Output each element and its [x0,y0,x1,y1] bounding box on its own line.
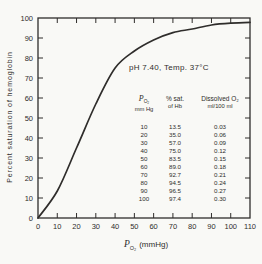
svg-text:90: 90 [207,222,215,231]
svg-text:0: 0 [36,222,40,231]
table-cell: 97.4 [157,195,193,203]
svg-text:90: 90 [25,34,33,43]
table-header-gap [132,113,246,123]
table-cell: 80 [132,179,156,187]
svg-text:100: 100 [224,222,237,231]
svg-text:70: 70 [25,74,33,83]
y-tick-labels: 0102030405060708090100 [20,14,33,223]
svg-text:60: 60 [149,222,157,231]
table-cell: 13.5 [157,123,193,131]
svg-text:40: 40 [25,134,33,143]
svg-text:70: 70 [169,222,177,231]
table-cell: 96.5 [157,187,193,195]
y-axis-title: Percent saturation of hemoglobin [6,51,13,183]
table-cell: 10 [132,123,156,131]
col-header-saturation: % sat. of Hb [157,95,193,113]
table-cell: 0.15 [194,155,246,163]
table-cell: 60 [132,163,156,171]
table-cell: 30 [132,139,156,147]
svg-text:40: 40 [111,222,119,231]
table-cell: 0.24 [194,179,246,187]
svg-text:30: 30 [92,222,100,231]
svg-text:10: 10 [53,222,61,231]
po2-unit: mm Hg [132,106,156,113]
table-cell: 35.0 [157,131,193,139]
table-cell: 0.03 [194,123,246,131]
table-cell: 0.09 [194,139,246,147]
table-cell: 92.7 [157,171,193,179]
svg-text:0: 0 [29,214,33,223]
table-cell: 83.5 [157,155,193,163]
svg-text:20: 20 [25,174,33,183]
svg-text:50: 50 [130,222,138,231]
svg-text:30: 30 [25,154,33,163]
svg-text:80: 80 [25,54,33,63]
x-title-unit: (mmHg) [139,240,168,249]
svg-text:20: 20 [72,222,80,231]
svg-text:100: 100 [20,14,33,23]
table-cell: 0.21 [194,171,246,179]
table-cell: 0.12 [194,147,246,155]
table-cell: 20 [132,131,156,139]
oxyhemoglobin-dissociation-figure: 0102030405060708090100110010203040506070… [0,0,262,264]
x-tick-labels: 0102030405060708090100110 [36,222,256,231]
inset-data-table: PO₂ mm Hg % sat. of Hb Dissolved O₂ ml/1… [132,95,246,203]
conditions-annotation: pH 7.40, Temp. 37°C [129,63,209,72]
svg-text:110: 110 [244,222,256,231]
col-header-dissolved-o2: Dissolved O₂ ml/100 ml [194,95,246,113]
table-cell: 94.5 [157,179,193,187]
svg-text:50: 50 [25,114,33,123]
svg-text:10: 10 [25,194,33,203]
x-title-subscript: O₂ [130,245,136,251]
table-cell: 0.18 [194,163,246,171]
x-axis-title: PO₂(mmHg) [124,239,168,251]
table-cell: 75.0 [157,147,193,155]
table-cell: 89.0 [157,163,193,171]
table-cell: 0.30 [194,195,246,203]
svg-text:60: 60 [25,94,33,103]
col-header-po2: PO₂ mm Hg [132,95,156,113]
table-cell: 90 [132,187,156,195]
table-cell: 40 [132,147,156,155]
table-cell: 0.06 [194,131,246,139]
table-cell: 57.0 [157,139,193,147]
table-cell: 0.27 [194,187,246,195]
po2-subscript: O₂ [144,99,150,104]
table-cell: 70 [132,171,156,179]
table-cell: 50 [132,155,156,163]
table-cell: 100 [132,195,156,203]
svg-text:80: 80 [188,222,196,231]
